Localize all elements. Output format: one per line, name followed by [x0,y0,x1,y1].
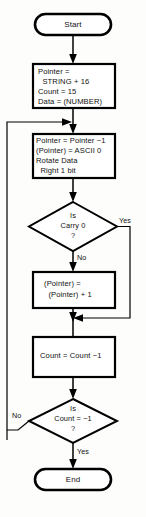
loopbody-line-2: (Pointer) = ASCII 0 [36,147,101,156]
counttest-line-1: Is [50,405,96,414]
carrytest-line-3: ? [53,232,93,241]
arrowhead-count-yes [69,459,77,469]
init-line-1: Pointer = [38,68,70,77]
counttest-line-2: Count = −1 [50,415,96,424]
carrytest-line-2: Carry 0 [53,222,93,231]
count-yes-label: Yes [77,448,89,456]
carry-no-label: No [77,254,86,262]
increment-line-2: (Pointer) + 1 [44,291,92,300]
flowchart-diagram: Start Pointer = STRING + 16 Count = 15 D… [0,0,146,517]
count-no-label: No [12,412,21,420]
loopbody-line-1: Pointer = Pointer −1 [36,137,106,146]
arrowhead-init-to-loopbody [69,124,77,134]
increment-line-1: (Pointer) = [44,280,81,289]
arrowhead-decrement-to-counttest [69,389,77,399]
end-label: End [35,475,111,484]
carry-yes-label: Yes [119,217,131,225]
counttest-line-3: ? [50,425,96,434]
carrytest-line-1: Is [53,212,93,221]
arrowhead-loopbody-to-carrytest [69,192,77,202]
arrowhead-carry-no [69,262,77,272]
connector-count-no [7,421,29,430]
init-line-2: STRING + 16 [38,78,89,87]
start-label: Start [35,20,111,29]
loopbody-line-4: Right 1 bit [36,167,76,176]
decrement-line-1: Count = Count −1 [40,352,102,361]
arrowhead-start-to-init [69,54,77,64]
init-line-3: Count = 15 [38,88,76,97]
loopbody-line-3: Rotate Data [36,157,78,166]
init-line-4: Data = (NUMBER) [38,98,102,107]
